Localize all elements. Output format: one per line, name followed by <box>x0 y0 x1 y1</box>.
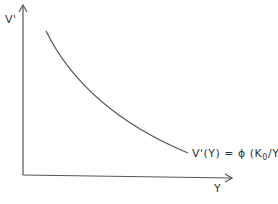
demand-curve <box>46 31 188 153</box>
y-axis-label: V' <box>5 13 17 26</box>
diagram-canvas <box>0 0 278 204</box>
x-axis-label: Y <box>214 182 221 195</box>
curve-label: V'(Y) = ϕ (K0/Y) <box>192 147 278 162</box>
y-axis <box>19 5 27 175</box>
x-axis <box>23 174 232 182</box>
